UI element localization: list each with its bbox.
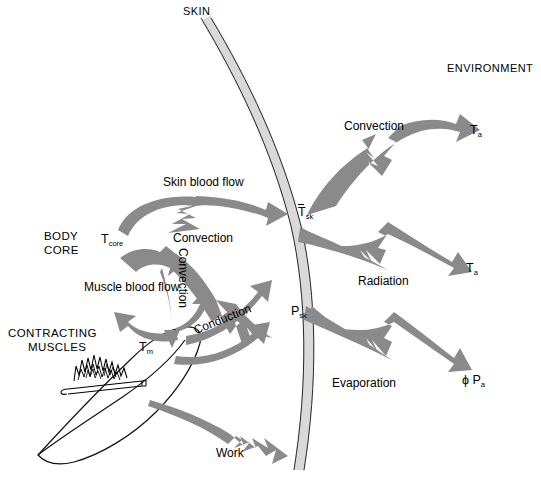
symbol-t-air-rad-base: T xyxy=(466,261,474,275)
symbol-t-skin-sub: sk xyxy=(306,212,314,221)
symbol-t-skin-mean: Tsk xyxy=(298,206,313,219)
arrow-radiation xyxy=(298,222,472,276)
label-environment: ENVIRONMENT xyxy=(447,63,533,74)
symbol-phi-p-air: ϕ Pa xyxy=(462,374,485,387)
symbol-t-air-conv-sub: a xyxy=(478,130,482,139)
symbol-t-core: Tcore xyxy=(101,233,123,246)
symbol-t-air-conv-base: T xyxy=(470,123,478,137)
symbol-t-air-radiation: Ta xyxy=(466,262,478,275)
symbol-p-air-base: P xyxy=(473,373,481,387)
label-skin-blood-flow: Skin blood flow xyxy=(163,176,244,188)
arrow-evaporation xyxy=(304,306,472,372)
symbol-t-air-convection: Ta xyxy=(470,124,482,137)
symbol-t-core-sub: core xyxy=(109,239,124,248)
label-convection-vertical: Convection xyxy=(177,248,189,308)
symbol-phi: ϕ xyxy=(462,373,469,387)
label-contracting-muscles-line1: CONTRACTING xyxy=(8,328,97,340)
label-muscle-blood-flow: Muscle blood flow xyxy=(84,281,179,293)
symbol-p-skin: Psk xyxy=(291,305,307,318)
label-work: Work xyxy=(216,447,244,459)
symbol-p-skin-sub: sk xyxy=(299,311,307,320)
label-convection-environment: Convection xyxy=(344,120,404,132)
label-body-core-line1: BODY xyxy=(44,231,78,243)
label-convection-core: Convection xyxy=(173,232,233,244)
arrow-skin-blood-flow xyxy=(118,196,288,236)
symbol-t-skin-base: T xyxy=(298,206,306,219)
label-contracting-muscles-line2: MUSCLES xyxy=(28,342,86,354)
diagram-canvas: .arrow{fill:#8a8a8a;} .thin{fill:none;st… xyxy=(0,0,541,481)
label-skin: SKIN xyxy=(183,6,210,17)
label-radiation: Radiation xyxy=(358,275,409,287)
label-evaporation: Evaporation xyxy=(332,377,396,389)
symbol-t-muscle-sub: m xyxy=(147,347,153,356)
symbol-t-core-base: T xyxy=(101,232,109,246)
symbol-p-air-sub: a xyxy=(481,380,485,389)
symbol-t-muscle: Tm xyxy=(139,341,153,354)
symbol-t-air-rad-sub: a xyxy=(474,268,478,277)
label-body-core-line2: CORE xyxy=(44,245,79,257)
flame-icon xyxy=(61,355,146,394)
symbol-t-muscle-base: T xyxy=(139,340,147,354)
